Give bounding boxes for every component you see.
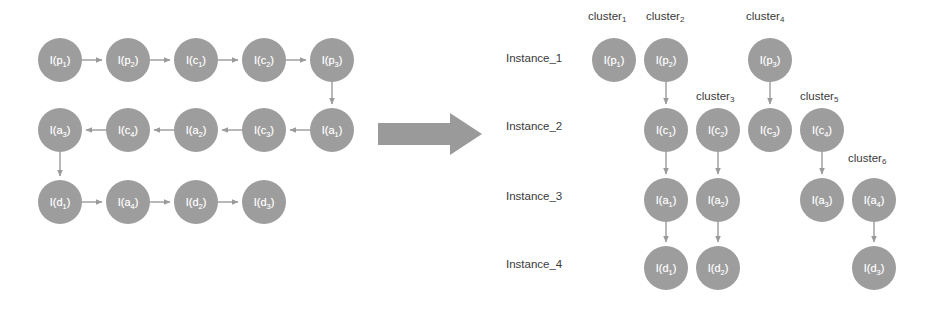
graph-node-l-p3[interactable]: I(p3): [310, 38, 354, 82]
node-label: I(c2): [254, 54, 274, 66]
graph-node-r-d1[interactable]: I(d1): [644, 246, 688, 290]
node-label: I(p1): [50, 54, 71, 66]
diagram-canvas: I(p1)I(p2)I(c1)I(c2)I(p3)I(a3)I(c4)I(a2)…: [0, 0, 935, 309]
graph-node-l-d3[interactable]: I(d3): [242, 180, 286, 224]
graph-node-r-c1[interactable]: I(c1): [644, 108, 688, 152]
node-label: I(a2): [186, 124, 207, 136]
node-label: I(a3): [812, 194, 833, 206]
graph-node-r-a3[interactable]: I(a3): [800, 178, 844, 222]
cluster-label-6: cluster6: [848, 152, 886, 164]
node-label: I(p2): [656, 54, 677, 66]
node-label: I(d1): [656, 262, 677, 274]
node-label: I(p3): [322, 54, 343, 66]
graph-node-r-a1[interactable]: I(a1): [644, 178, 688, 222]
graph-node-l-a3[interactable]: I(a3): [38, 108, 82, 152]
node-label: I(d2): [708, 262, 729, 274]
cluster-label-4: cluster4: [746, 10, 784, 22]
graph-node-r-a2[interactable]: I(a2): [696, 178, 740, 222]
instance-row-label-1: Instance_1: [506, 52, 562, 64]
graph-node-l-c1[interactable]: I(c1): [174, 38, 218, 82]
node-label: I(d1): [50, 196, 71, 208]
cluster-label-3: cluster3: [696, 90, 734, 102]
node-label: I(a3): [50, 124, 71, 136]
graph-node-l-c2[interactable]: I(c2): [242, 38, 286, 82]
node-label: I(c4): [118, 124, 138, 136]
graph-node-l-p2[interactable]: I(p2): [106, 38, 150, 82]
node-label: I(c2): [708, 124, 728, 136]
instance-row-label-3: Instance_3: [506, 190, 562, 202]
graph-node-l-a2[interactable]: I(a2): [174, 108, 218, 152]
instance-row-label-4: Instance_4: [506, 258, 562, 270]
node-label: I(a4): [118, 196, 139, 208]
graph-node-r-c2[interactable]: I(c2): [696, 108, 740, 152]
node-label: I(d3): [254, 196, 275, 208]
node-label: I(a2): [708, 194, 729, 206]
node-label: I(d2): [186, 196, 207, 208]
node-label: I(c3): [760, 124, 780, 136]
cluster-label-2: cluster2: [646, 10, 684, 22]
node-label: I(d3): [864, 262, 885, 274]
node-label: I(c1): [186, 54, 206, 66]
graph-node-l-a1[interactable]: I(a1): [310, 108, 354, 152]
graph-node-l-c3[interactable]: I(c3): [242, 108, 286, 152]
graph-node-r-c3[interactable]: I(c3): [748, 108, 792, 152]
cluster-label-5: cluster5: [800, 90, 838, 102]
graph-node-l-c4[interactable]: I(c4): [106, 108, 150, 152]
cluster-label-1: cluster1: [588, 10, 626, 22]
node-label: I(p1): [604, 54, 625, 66]
node-label: I(c4): [812, 124, 832, 136]
instance-row-label-2: Instance_2: [506, 120, 562, 132]
node-label: I(c3): [254, 124, 274, 136]
node-label: I(p3): [760, 54, 781, 66]
graph-node-l-d1[interactable]: I(d1): [38, 180, 82, 224]
graph-node-r-d3[interactable]: I(d3): [852, 246, 896, 290]
graph-node-r-p2[interactable]: I(p2): [644, 38, 688, 82]
transformation-arrow: [378, 113, 482, 155]
node-label: I(c1): [656, 124, 676, 136]
graph-node-r-p1[interactable]: I(p1): [592, 38, 636, 82]
graph-node-l-a4[interactable]: I(a4): [106, 180, 150, 224]
node-label: I(a1): [656, 194, 677, 206]
graph-node-r-d2[interactable]: I(d2): [696, 246, 740, 290]
graph-node-r-p3[interactable]: I(p3): [748, 38, 792, 82]
graph-node-l-d2[interactable]: I(d2): [174, 180, 218, 224]
node-label: I(a4): [864, 194, 885, 206]
node-label: I(a1): [322, 124, 343, 136]
graph-node-r-a4[interactable]: I(a4): [852, 178, 896, 222]
graph-node-l-p1[interactable]: I(p1): [38, 38, 82, 82]
graph-node-r-c4[interactable]: I(c4): [800, 108, 844, 152]
node-label: I(p2): [118, 54, 139, 66]
